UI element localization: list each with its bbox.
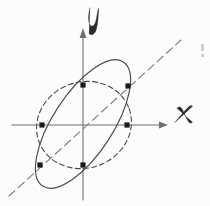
x-axis-arrowhead — [159, 122, 168, 129]
marker-top-on-y-axis — [80, 82, 85, 87]
marker-right-on-x-axis — [124, 122, 129, 127]
x-axis-label-glyph — [175, 106, 193, 123]
marker-upper-right — [125, 83, 130, 88]
scan-edge-mark-lower — [201, 54, 204, 57]
y-axis-label-glyph — [89, 8, 99, 35]
marker-bottom-on-y-axis — [80, 162, 85, 167]
figure-canvas: Hand-drawn coordinate diagram with two e… — [0, 0, 210, 206]
y-axis-arrowhead — [80, 28, 87, 38]
scan-edge-mark-upper — [201, 44, 204, 51]
marker-left-on-x-axis — [39, 122, 44, 127]
marker-lower-left — [37, 162, 42, 167]
dashed-diagonal-line — [9, 40, 181, 196]
geometry-figure — [0, 0, 210, 206]
